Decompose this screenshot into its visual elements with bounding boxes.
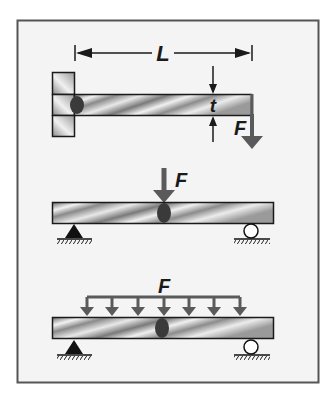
cantilever-beam <box>75 95 252 116</box>
length-label: L <box>156 41 169 66</box>
roller-icon <box>244 224 258 238</box>
weld-dot-icon <box>157 203 171 223</box>
force-label: F <box>158 275 171 297</box>
wall-block-bottom <box>53 116 75 137</box>
thickness-label: t <box>210 95 217 116</box>
force-label: F <box>234 117 247 139</box>
weld-dot-icon <box>155 318 169 338</box>
beam-loading-diagram: L t F F <box>0 0 334 405</box>
weld-dot-icon <box>70 96 84 114</box>
force-label: F <box>175 169 188 191</box>
wall-block-top <box>53 73 75 95</box>
roller-icon <box>244 340 258 354</box>
